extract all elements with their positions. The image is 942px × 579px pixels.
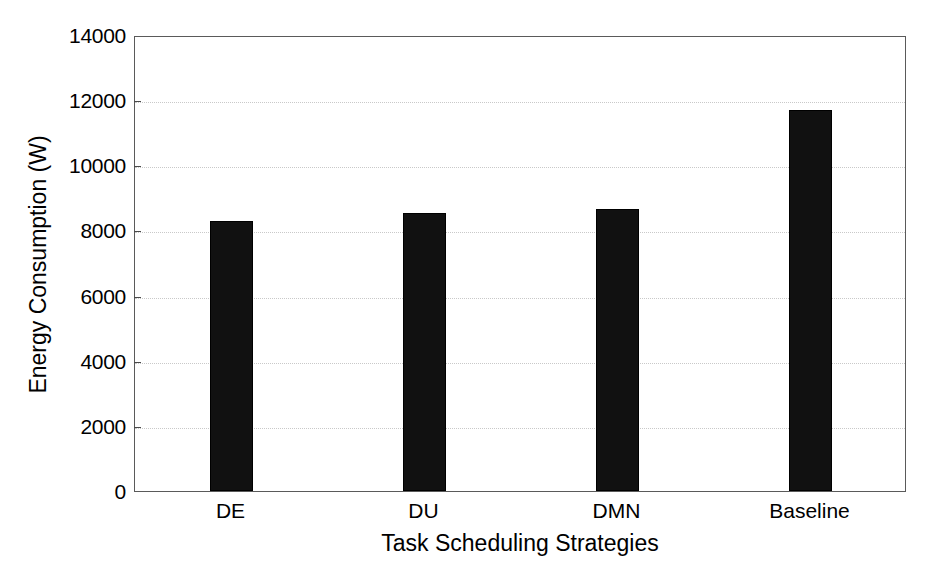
plot-area bbox=[134, 36, 906, 492]
y-tick-label: 14000 bbox=[69, 25, 126, 46]
y-tick-mark bbox=[134, 427, 141, 428]
bar bbox=[596, 209, 639, 491]
y-tick-mark bbox=[134, 166, 141, 167]
y-tick-mark bbox=[134, 297, 141, 298]
x-tick-label: DU bbox=[408, 500, 438, 522]
bar bbox=[789, 110, 832, 491]
x-axis-label: Task Scheduling Strategies bbox=[134, 531, 906, 555]
bar bbox=[403, 213, 446, 491]
y-tick-label: 8000 bbox=[80, 220, 126, 241]
y-tick-label: 6000 bbox=[80, 286, 126, 307]
gridline bbox=[135, 102, 905, 103]
y-tick-mark bbox=[134, 362, 141, 363]
y-tick-label: 10000 bbox=[69, 155, 126, 176]
x-tick-label: DMN bbox=[593, 500, 641, 522]
x-tick-label: DE bbox=[216, 500, 245, 522]
y-tick-label: 0 bbox=[115, 481, 126, 502]
bar bbox=[210, 221, 253, 491]
y-tick-label: 2000 bbox=[80, 416, 126, 437]
x-tick-label: Baseline bbox=[769, 500, 850, 522]
y-tick-label: 4000 bbox=[80, 351, 126, 372]
y-axis-tick-labels: 02000400060008000100001200014000 bbox=[0, 0, 126, 579]
y-tick-label: 12000 bbox=[69, 90, 126, 111]
y-tick-mark bbox=[134, 101, 141, 102]
y-tick-mark bbox=[134, 231, 141, 232]
bar-chart-figure: Energy Consumption (W) 02000400060008000… bbox=[0, 0, 942, 579]
